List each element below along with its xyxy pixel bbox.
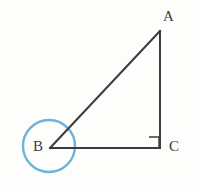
diagram-canvas: A B C xyxy=(0,0,200,186)
vertex-label-b: B xyxy=(33,139,43,154)
highlight-circle-b xyxy=(23,120,75,172)
triangle-figure xyxy=(0,0,200,186)
vertex-label-a: A xyxy=(163,9,174,24)
segment-hypotenuse-ab xyxy=(50,31,160,148)
vertex-label-c: C xyxy=(169,139,179,154)
right-angle-marker-c xyxy=(149,137,159,147)
